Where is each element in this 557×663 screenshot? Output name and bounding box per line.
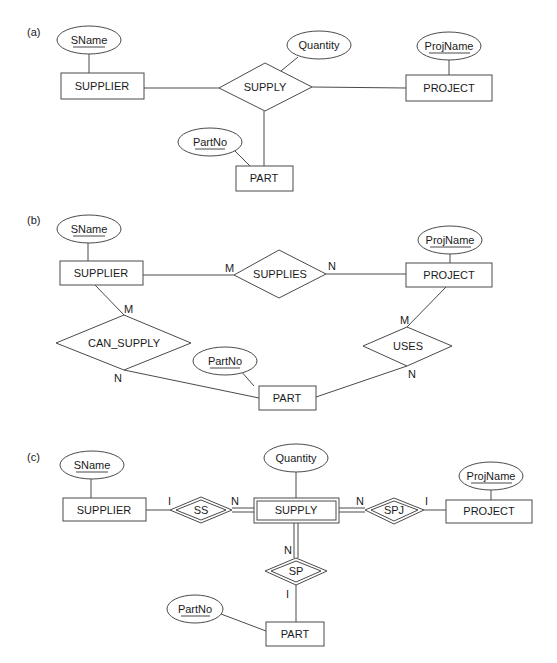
- svg-text:SPJ: SPJ: [384, 504, 404, 516]
- cardinality-ss-supply: N: [231, 495, 239, 507]
- attribute-sname[interactable]: SName: [60, 451, 124, 479]
- entity-part[interactable]: PART: [236, 166, 293, 191]
- svg-text:PART: PART: [273, 392, 302, 404]
- svg-text:ProjName: ProjName: [467, 470, 516, 482]
- attribute-sname[interactable]: SName: [57, 215, 121, 243]
- line-supplier-can-supply: [95, 285, 124, 315]
- cardinality-spj-supply: N: [356, 495, 364, 507]
- relationship-uses[interactable]: USES: [363, 327, 452, 366]
- line-supply-quantity: [281, 57, 298, 71]
- cardinality-sp-supply: N: [284, 544, 292, 556]
- entity-project[interactable]: PROJECT: [446, 500, 532, 523]
- svg-text:SP: SP: [289, 565, 304, 577]
- attribute-projname[interactable]: ProjName: [459, 462, 523, 490]
- er-diagram-canvas: (a) SName Quantity ProjName PartNo: [0, 0, 557, 663]
- relationship-can-supply[interactable]: CAN_SUPPLY: [56, 315, 191, 370]
- cardinality-sp-part: I: [286, 588, 289, 600]
- line-uses-part: [316, 366, 407, 397]
- line-can-supply-part: [124, 370, 259, 398]
- attribute-quantity[interactable]: Quantity: [287, 31, 351, 59]
- identifying-relationship-sp[interactable]: SP: [265, 558, 327, 585]
- line-supply-project: [312, 87, 406, 88]
- cardinality-can-supply-part: N: [114, 372, 122, 384]
- entity-part[interactable]: PART: [259, 386, 316, 410]
- svg-text:SName: SName: [71, 34, 108, 46]
- svg-text:SUPPLIER: SUPPLIER: [74, 267, 128, 279]
- cardinality-can-supply-supplier: M: [124, 303, 133, 315]
- cardinality-uses-project: M: [400, 314, 409, 326]
- attribute-partno[interactable]: PartNo: [193, 347, 257, 375]
- svg-text:SS: SS: [194, 504, 209, 516]
- svg-text:SUPPLY: SUPPLY: [244, 81, 287, 93]
- svg-text:SName: SName: [74, 459, 111, 471]
- attribute-partno[interactable]: PartNo: [167, 595, 223, 623]
- svg-text:CAN_SUPPLY: CAN_SUPPLY: [88, 337, 161, 349]
- cardinality-spj-project: I: [425, 495, 428, 507]
- svg-text:SUPPLY: SUPPLY: [275, 504, 318, 516]
- svg-text:PROJECT: PROJECT: [423, 82, 475, 94]
- entity-project[interactable]: PROJECT: [406, 75, 492, 101]
- line-partno-part: [221, 614, 266, 631]
- panel-label-a: (a): [27, 26, 40, 38]
- panel-a: (a) SName Quantity ProjName PartNo: [27, 26, 492, 191]
- attribute-partno[interactable]: PartNo: [178, 128, 242, 156]
- attribute-quantity[interactable]: Quantity: [264, 444, 328, 472]
- weak-entity-supply[interactable]: SUPPLY: [254, 498, 339, 523]
- svg-text:PartNo: PartNo: [208, 355, 242, 367]
- double-line-supply-sp: [294, 523, 298, 558]
- panel-b: (b) M N M N M N SName ProjName Part: [27, 214, 492, 410]
- panel-label-b: (b): [27, 214, 40, 226]
- line-partno-part: [235, 151, 250, 166]
- panel-c: (c) I N N I N I SName: [27, 444, 532, 646]
- relationship-supply[interactable]: SUPPLY: [219, 63, 312, 111]
- svg-text:PartNo: PartNo: [178, 603, 212, 615]
- svg-text:PART: PART: [281, 628, 310, 640]
- svg-text:SUPPLIER: SUPPLIER: [77, 504, 131, 516]
- svg-text:Quantity: Quantity: [299, 39, 340, 51]
- double-line-supply-spj: [339, 508, 365, 512]
- entity-project[interactable]: PROJECT: [406, 263, 492, 287]
- svg-text:SUPPLIER: SUPPLIER: [75, 80, 129, 92]
- attribute-sname[interactable]: SName: [57, 26, 121, 54]
- svg-text:ProjName: ProjName: [426, 234, 475, 246]
- entity-supplier[interactable]: SUPPLIER: [61, 73, 144, 99]
- entity-part[interactable]: PART: [266, 622, 324, 646]
- relationship-supplies[interactable]: SUPPLIES: [234, 250, 326, 298]
- identifying-relationship-ss[interactable]: SS: [170, 497, 232, 523]
- entity-supplier[interactable]: SUPPLIER: [63, 498, 146, 521]
- svg-text:PART: PART: [250, 172, 279, 184]
- entity-supplier[interactable]: SUPPLIER: [60, 261, 143, 285]
- panel-label-c: (c): [27, 451, 40, 463]
- attribute-projname[interactable]: ProjName: [417, 32, 481, 60]
- cardinality-ss-supplier: I: [168, 495, 171, 507]
- svg-text:PROJECT: PROJECT: [423, 269, 475, 281]
- svg-text:PROJECT: PROJECT: [463, 505, 515, 517]
- svg-text:Quantity: Quantity: [276, 452, 317, 464]
- line-project-uses: [407, 287, 446, 327]
- svg-text:ProjName: ProjName: [425, 40, 474, 52]
- cardinality-uses-part: N: [408, 368, 416, 380]
- attribute-projname[interactable]: ProjName: [418, 226, 482, 254]
- cardinality-supplies-supplier: M: [225, 262, 234, 274]
- svg-text:PartNo: PartNo: [193, 136, 227, 148]
- identifying-relationship-spj[interactable]: SPJ: [365, 498, 424, 524]
- cardinality-supplies-project: N: [328, 260, 336, 272]
- svg-text:SName: SName: [71, 223, 108, 235]
- double-line-ss-supply: [232, 508, 254, 512]
- svg-text:USES: USES: [393, 340, 423, 352]
- svg-text:SUPPLIES: SUPPLIES: [253, 268, 307, 280]
